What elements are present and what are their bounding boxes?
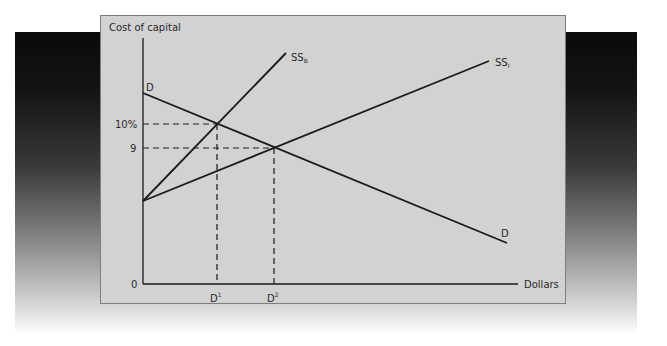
x-tick-d1: D1 — [210, 291, 222, 304]
chart-plot: Cost of capital Dollars 0 10% 9 D1 D2 D … — [0, 0, 667, 346]
demand-curve — [143, 93, 507, 243]
ssi-label: SSI — [495, 57, 510, 69]
demand-label-start: D — [146, 82, 154, 93]
y-tick-9: 9 — [130, 143, 136, 154]
x-axis-label: Dollars — [524, 279, 559, 290]
supply-curve-ssi — [143, 61, 489, 201]
supply-curve-ssb — [143, 53, 286, 201]
origin-label: 0 — [131, 279, 137, 290]
y-tick-10pct: 10% — [115, 119, 137, 130]
y-axis-label: Cost of capital — [109, 22, 181, 33]
demand-label-end: D — [501, 228, 509, 239]
x-tick-d2: D2 — [267, 291, 279, 304]
ssb-label: SSB — [291, 52, 308, 64]
